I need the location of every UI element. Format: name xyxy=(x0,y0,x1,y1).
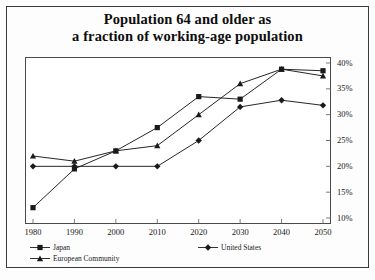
y-tick-30pct: 30% xyxy=(337,110,369,119)
y-tick-35pct: 35% xyxy=(337,84,369,93)
chart-title: Population 64 and older as a fraction of… xyxy=(18,11,357,45)
x-tick-2050: 2050 xyxy=(303,228,343,237)
x-tick-2040: 2040 xyxy=(262,228,302,237)
legend-label-japan: Japan xyxy=(53,243,70,252)
legend-marker-diamond-icon xyxy=(198,243,218,252)
x-tick-2000: 2000 xyxy=(96,228,136,237)
y-tick-15pct: 15% xyxy=(337,188,369,197)
chart-figure: Population 64 and older as a fraction of… xyxy=(0,0,375,280)
y-tick-25pct: 25% xyxy=(337,136,369,145)
y-tick-20pct: 20% xyxy=(337,162,369,171)
series-european-community xyxy=(30,66,326,164)
x-tick-2010: 2010 xyxy=(137,228,177,237)
x-tick-2030: 2030 xyxy=(220,228,260,237)
chart-legend: Japan European Community United States xyxy=(30,243,330,269)
legend-label-united-states: United States xyxy=(221,243,261,252)
plot-canvas xyxy=(25,57,331,224)
series-japan xyxy=(30,67,325,211)
legend-item-japan: Japan xyxy=(30,243,70,252)
y-tick-40pct: 40% xyxy=(337,59,369,68)
legend-label-european-community: European Community xyxy=(53,254,119,263)
x-tick-2020: 2020 xyxy=(179,228,219,237)
legend-item-european-community: European Community xyxy=(30,254,119,263)
legend-marker-triangle-icon xyxy=(30,254,50,263)
x-tick-1990: 1990 xyxy=(54,228,94,237)
legend-marker-square-icon xyxy=(30,243,50,252)
chart-title-line-1: Population 64 and older as xyxy=(18,11,357,28)
chart-title-line-2: a fraction of working-age population xyxy=(18,28,357,45)
legend-item-united-states: United States xyxy=(198,243,261,252)
x-tick-1980: 1980 xyxy=(13,228,53,237)
y-tick-10pct: 10% xyxy=(337,214,369,223)
